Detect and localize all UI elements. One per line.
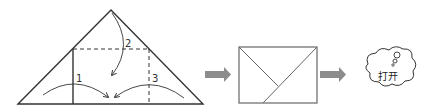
fold-arrows (43, 13, 184, 98)
cloud-text: 打开 (378, 70, 398, 82)
block-arrow-2-icon (320, 67, 346, 82)
step-label-1: 1 (76, 73, 82, 84)
step-label-3: 3 (152, 73, 158, 84)
envelope-icon (239, 47, 317, 103)
block-arrow-1-icon (205, 67, 231, 82)
thought-cloud-icon: 打开 (366, 47, 416, 86)
step-label-2: 2 (125, 38, 131, 49)
envelope-folding-diagram: 2 1 3 打开 (0, 0, 437, 112)
triangle-paper (18, 10, 203, 104)
